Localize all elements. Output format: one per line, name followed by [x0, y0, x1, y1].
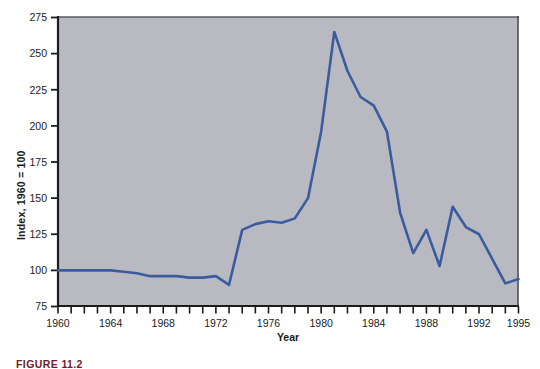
x-tick-label: 1976 — [257, 317, 281, 329]
x-tick-label: 1968 — [152, 317, 176, 329]
plot-background — [58, 17, 519, 307]
y-tick-label: 100 — [29, 264, 47, 276]
figure-caption: FIGURE 11.2 — [16, 358, 83, 369]
y-tick-label-group: 75100125150175200225250275 — [29, 11, 47, 312]
y-tick-label: 225 — [29, 84, 47, 96]
y-tick-label: 275 — [29, 11, 47, 23]
x-tick-label: 1988 — [415, 317, 439, 329]
x-tick-group — [58, 307, 519, 314]
y-axis-title: Index, 1960 = 100 — [15, 150, 27, 240]
figure-container: 75100125150175200225250275 1960196419681… — [0, 0, 540, 369]
x-tick-label: 1992 — [467, 317, 491, 329]
x-tick-label: 1972 — [204, 317, 228, 329]
y-tick-label: 75 — [35, 300, 47, 312]
x-axis-title: Year — [277, 331, 299, 343]
y-tick-label: 150 — [29, 192, 47, 204]
y-tick-label: 175 — [29, 156, 47, 168]
x-tick-label: 1980 — [309, 317, 333, 329]
y-tick-label: 125 — [29, 228, 47, 240]
x-tick-label: 1964 — [99, 317, 123, 329]
x-tick-label: 1995 — [507, 317, 531, 329]
index-line-chart: 75100125150175200225250275 1960196419681… — [0, 0, 540, 369]
x-tick-label: 1960 — [46, 317, 70, 329]
y-tick-label: 250 — [29, 47, 47, 59]
x-tick-label-group: 1960196419681972197619801984198819921995 — [46, 317, 530, 329]
x-tick-label: 1984 — [362, 317, 386, 329]
y-tick-label: 200 — [29, 120, 47, 132]
